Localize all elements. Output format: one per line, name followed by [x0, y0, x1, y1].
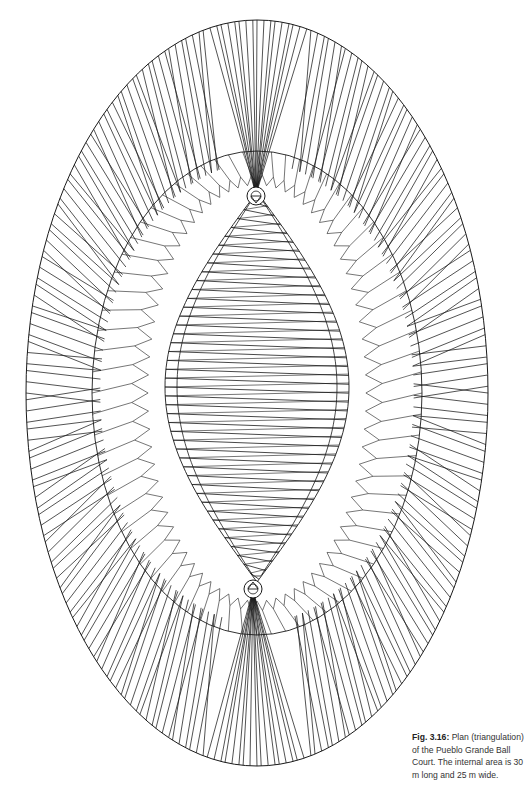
ball-court-triangulation-plan — [0, 0, 527, 789]
radial-triangulation-lines — [26, 20, 488, 766]
figure-label: Fig. 3.16: — [412, 732, 449, 742]
figure-caption: Fig. 3.16: Plan (triangulation) of the P… — [412, 731, 527, 781]
end-marker-north-icon — [247, 187, 265, 205]
inner-court-triangulation-lines — [165, 197, 349, 579]
inner-court-boundary-secondary — [177, 198, 337, 576]
end-marker-south-icon — [244, 580, 262, 598]
